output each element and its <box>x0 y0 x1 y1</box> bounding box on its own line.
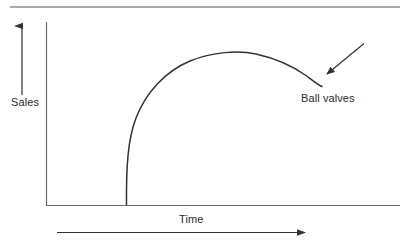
y-axis-label: Sales <box>11 96 39 108</box>
product-life-cycle-figure: Sales Time Ball valves <box>0 0 409 251</box>
curve-annotation-label: Ball valves <box>301 92 355 104</box>
x-axis-label: Time <box>179 213 203 225</box>
ball-valves-annotation-arrow <box>327 44 364 75</box>
figure-canvas <box>0 0 409 251</box>
life-cycle-curve <box>126 52 322 205</box>
